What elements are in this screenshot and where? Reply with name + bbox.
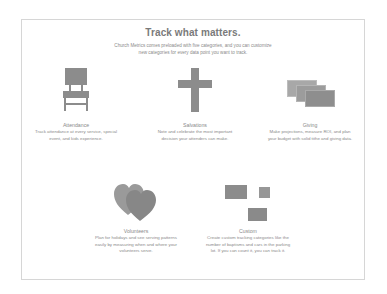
features-panel: Track what matters. Church Metrics comes…	[21, 19, 365, 280]
desc-line: your budget with solid tithe and giving …	[254, 136, 366, 143]
cross-icon	[178, 68, 212, 112]
category-description: Track attendance at every service, speci…	[26, 129, 126, 142]
section-subtitle: Church Metrics comes preloaded with five…	[22, 42, 364, 56]
money-bills-icon	[287, 68, 333, 112]
desc-line: Plan for holidays and see serving patter…	[80, 235, 192, 242]
desc-line: lot. If you can count it, you can track …	[192, 248, 304, 255]
desc-line: Track attendance at every service, speci…	[26, 129, 126, 136]
category-name: Custom	[192, 228, 304, 235]
category-giving: Giving Make projections, measure ROI, an…	[254, 68, 366, 142]
category-name: Attendance	[26, 122, 126, 129]
category-name: Giving	[254, 122, 366, 129]
hearts-svg	[114, 183, 158, 223]
custom-blocks-icon	[225, 183, 271, 225]
desc-line: Create custom tracking categories like t…	[192, 235, 304, 242]
section-title: Track what matters.	[22, 27, 364, 38]
category-description: Create custom tracking categories like t…	[192, 235, 304, 255]
category-name: Salvations	[140, 122, 250, 129]
category-salvations: Salvations Note and celebrate the most i…	[140, 68, 250, 142]
category-volunteers: Volunteers Plan for holidays and see ser…	[80, 183, 192, 255]
hearts-icon	[114, 183, 158, 223]
category-custom: Custom Create custom tracking categories…	[192, 183, 304, 255]
category-description: Make projections, measure ROI, and plan …	[254, 129, 366, 142]
desc-line: event, and kids experience.	[26, 136, 126, 143]
category-name: Volunteers	[80, 228, 192, 235]
category-attendance: Attendance Track attendance at every ser…	[26, 68, 126, 142]
chair-icon	[63, 68, 89, 112]
subtitle-line: new categories for every data point you …	[22, 49, 364, 56]
desc-line: decision your attenders can make.	[140, 136, 250, 143]
desc-line: volunteers serve.	[80, 248, 192, 255]
category-description: Note and celebrate the most important de…	[140, 129, 250, 142]
category-description: Plan for holidays and see serving patter…	[80, 235, 192, 255]
desc-line: Make projections, measure ROI, and plan	[254, 129, 366, 136]
subtitle-line: Church Metrics comes preloaded with five…	[22, 42, 364, 49]
